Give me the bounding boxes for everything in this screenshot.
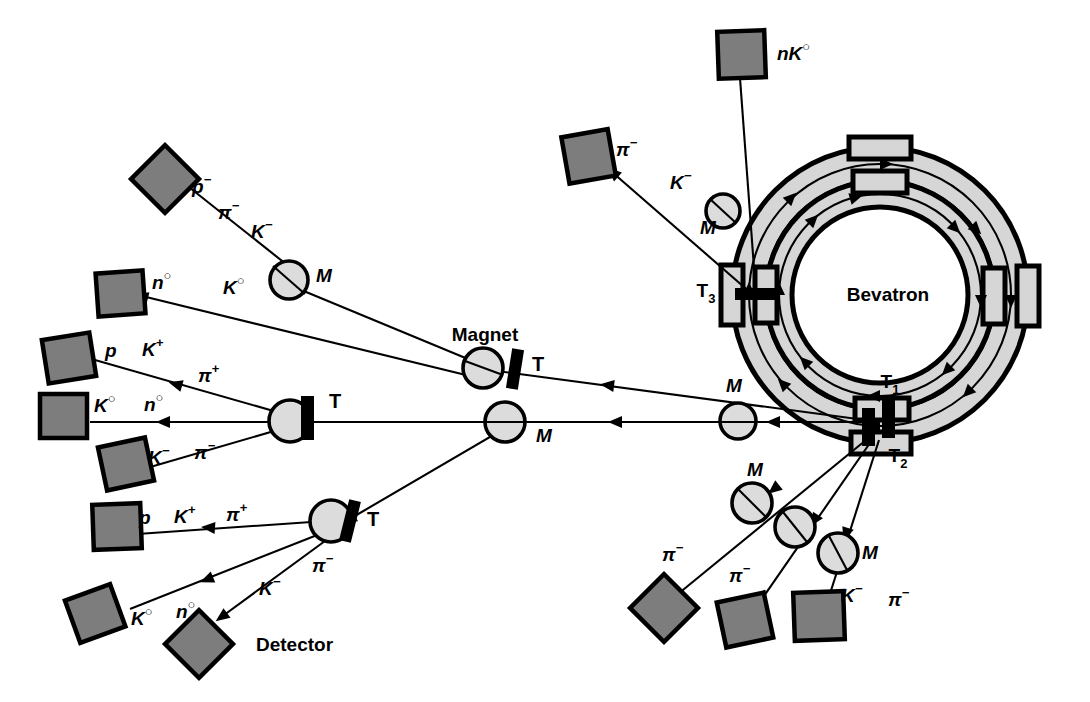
label-bevatron: Bevatron (847, 284, 929, 305)
label-K-topright-charge: − (684, 168, 692, 183)
label-Kplus-mid: K+ (142, 335, 164, 360)
label-K0-mid: K○ (94, 391, 116, 416)
beam-n0-k0-upper (142, 296, 470, 376)
target-mid[interactable] (301, 396, 314, 440)
label-n0-mid-charge: ○ (156, 390, 164, 405)
label-pi-mid-charge: − (208, 438, 216, 453)
label-n0-upper: n○ (152, 268, 171, 293)
diagram-canvas: Bevatron T3 T1 T2 Magnet Detector T T T … (0, 0, 1090, 702)
detector-p-kplus[interactable] (42, 333, 96, 384)
ring-notch-top-inner (853, 171, 907, 193)
label-n0-low-charge: ○ (188, 597, 196, 612)
detector-lr-2[interactable] (717, 593, 774, 648)
label-M-top-right: M (700, 217, 717, 238)
label-piplus-low: π+ (226, 500, 248, 525)
label-nK0: nK○ (777, 39, 810, 64)
target-main-magnet[interactable] (506, 348, 524, 389)
label-pbar: p− (191, 172, 212, 197)
label-pi-pbar-charge: − (232, 198, 240, 213)
label-T-magnet: T (532, 353, 544, 375)
label-magnet-legend: Magnet (452, 324, 519, 345)
arrow-low-up (201, 521, 216, 534)
label-T-mid: T (329, 390, 341, 412)
label-pi-mid: π− (194, 438, 216, 463)
label-K-low-charge: − (273, 574, 281, 589)
label-n0-upper-charge: ○ (164, 268, 172, 283)
detector-nk0[interactable] (717, 30, 766, 79)
label-pi-lr3: π− (888, 585, 910, 610)
label-K0-upper-charge: ○ (237, 273, 245, 288)
label-T1-subscript: 1 (892, 382, 899, 397)
label-M-right-center: M (726, 375, 743, 396)
label-detector-legend: Detector (256, 634, 334, 655)
label-K-lr3: K− (841, 581, 863, 606)
label-pi-low: π− (312, 551, 334, 576)
label-M-lr1: M (747, 459, 764, 480)
label-piplus-mid-charge: + (212, 361, 220, 376)
detector-lr-3[interactable] (793, 591, 845, 641)
label-K-pbar-charge: − (265, 217, 273, 232)
bevatron-schematic: Bevatron T3 T1 T2 Magnet Detector T T T … (0, 0, 1090, 702)
label-pi-lr1: π− (662, 540, 684, 565)
label-K0-upper: K○ (223, 273, 245, 298)
beamline-lower-fan (123, 520, 340, 626)
label-K-low: K− (259, 574, 281, 599)
arrow-low-mid (198, 571, 215, 587)
label-K-topright: K− (670, 168, 692, 193)
label-nK0-charge: ○ (802, 39, 810, 54)
label-K0-mid-charge: ○ (108, 391, 116, 406)
label-pi-pbar: π− (218, 198, 240, 223)
label-pi-lr2-charge: − (743, 561, 751, 576)
target-T1[interactable] (882, 398, 895, 438)
detector-pi-topright[interactable] (561, 129, 615, 183)
label-Kplus-low-charge: + (188, 502, 196, 517)
label-K0-low: K○ (131, 604, 153, 629)
beam-mid-up (88, 358, 298, 418)
ring-notch-right-outer (1017, 266, 1039, 326)
label-T3: T3 (697, 280, 716, 306)
arrow-mid-flat (156, 416, 170, 428)
label-M-center: M (536, 425, 553, 446)
detector-p-kplus-low[interactable] (92, 503, 142, 550)
ring-notch-bottom-outer (851, 432, 911, 454)
label-pi-topright-charge: − (630, 135, 638, 150)
detector-n0-k0-upper[interactable] (96, 270, 146, 316)
beam-low-mid (130, 526, 340, 609)
label-Kplus-mid-charge: + (156, 335, 164, 350)
label-pi-lr3-charge: − (902, 585, 910, 600)
ring-notch-top-outer (849, 137, 911, 159)
label-K-pbar: K− (251, 217, 273, 242)
arrow-main-h-1 (608, 416, 622, 428)
detector-lr-1[interactable] (630, 574, 698, 642)
label-pbar-charge: − (204, 172, 212, 187)
detector-k-pi-mid[interactable] (98, 437, 154, 490)
label-pi-lr2: π− (729, 561, 751, 586)
detector-k0-n0-mid[interactable] (40, 394, 87, 438)
arrow-mid-up (167, 376, 184, 391)
target-T2[interactable] (862, 408, 875, 446)
label-T2-subscript: 2 (900, 456, 907, 471)
label-K0-low-charge: ○ (145, 604, 153, 619)
detectors (40, 30, 845, 678)
label-pi-low-charge: − (326, 551, 334, 566)
detector-pbar[interactable] (131, 145, 199, 213)
arrow-main-h-2 (766, 416, 780, 428)
label-piplus-mid: π+ (198, 361, 220, 386)
label-n0-mid: n○ (144, 390, 163, 415)
label-p-low: p (138, 507, 151, 528)
beam-lower-branch (348, 424, 512, 520)
label-T-lower: T (367, 508, 379, 530)
label-p-mid: p (104, 340, 117, 361)
label-pi-lr1-charge: − (676, 540, 684, 555)
label-M-upper-left: M (316, 265, 333, 286)
label-K-mid: K− (148, 443, 170, 468)
label-piplus-low-charge: + (240, 500, 248, 515)
label-pi-topright: π− (616, 135, 638, 160)
label-K-mid-charge: − (162, 443, 170, 458)
label-T3-subscript: 3 (708, 291, 715, 306)
label-K-lr3-charge: − (855, 581, 863, 596)
detector-k0-n0-low[interactable] (65, 584, 125, 643)
label-Kplus-low: K+ (174, 502, 196, 527)
label-M-lr3: M (862, 542, 879, 563)
arrow-upper-branch (599, 378, 614, 392)
